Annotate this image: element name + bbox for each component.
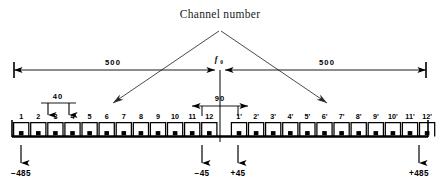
channel-right-6p[interactable]: 6' [317, 112, 332, 137]
channel-notch [391, 131, 396, 135]
channel-number-label: 2' [253, 112, 259, 121]
channel-right-11p[interactable]: 11' [402, 112, 417, 137]
span-dimension-left: 500 [14, 58, 215, 70]
channel-notch [104, 131, 109, 135]
channel-notch [271, 131, 276, 135]
channel-notch [87, 131, 92, 135]
channel-left-1[interactable]: 1 [14, 112, 29, 137]
leader-line-left [113, 31, 219, 103]
channel-right-8p[interactable]: 8' [351, 112, 366, 137]
channel-number-label: 11 [188, 112, 196, 121]
leader-line-right [221, 31, 327, 103]
channel-notch [288, 131, 293, 135]
dim-label-pitch: 40 [53, 92, 64, 101]
coord-label-right-inner: +45 [230, 169, 245, 178]
channel-left-11[interactable]: 11 [185, 112, 200, 137]
channel-number-label: 8 [139, 112, 143, 121]
channel-notch [408, 131, 413, 135]
channel-notch [374, 131, 379, 135]
channel-number-label: 4' [287, 112, 293, 121]
channel-number-label: 3 [53, 112, 57, 121]
channel-number-label: 5' [305, 112, 311, 121]
coord-label-left-inner: −45 [194, 169, 209, 178]
channel-number-label: 8' [356, 112, 362, 121]
channel-left-12[interactable]: 12 [202, 112, 217, 137]
dim-label-right-span: 500 [319, 58, 335, 67]
channel-number-label: 11' [405, 112, 415, 121]
channel-right-3p[interactable]: 3' [266, 112, 281, 137]
channel-right-10p[interactable]: 10' [385, 112, 400, 137]
channel-notch [173, 131, 178, 135]
diagram-title: Channel number [180, 8, 261, 20]
channel-number-label: 7' [339, 112, 345, 121]
channel-right-2p[interactable]: 2' [249, 112, 264, 137]
channel-left-4[interactable]: 4 [65, 112, 80, 137]
channel-number-label: 9 [156, 112, 160, 121]
channel-array: 1234567891011121'2'3'4'5'6'7'8'9'10'11'1… [14, 112, 435, 137]
f0-subscript: 0 [220, 59, 223, 65]
coord-label-left-outer: −485 [11, 169, 31, 178]
channel-notch [139, 131, 144, 135]
f0-symbol: f [215, 55, 219, 64]
channel-number-label: 4 [71, 112, 75, 121]
channel-right-4p[interactable]: 4' [283, 112, 298, 137]
channel-right-12p[interactable]: 12' [420, 112, 435, 137]
channel-notch [19, 131, 24, 135]
channel-number-label: 10' [388, 112, 398, 121]
channel-notch [339, 131, 344, 135]
channel-left-10[interactable]: 10 [168, 112, 183, 137]
channel-number-label: 6 [105, 112, 109, 121]
channel-notch [305, 131, 310, 135]
channel-notch [356, 131, 361, 135]
channel-notch [70, 131, 75, 135]
channel-number-label: 1 [19, 112, 23, 121]
channel-notch [122, 131, 127, 135]
span-dimension-right: 500 [225, 58, 426, 70]
coordinate-markers: −485 −45 +45 +485 [11, 145, 429, 178]
channel-number-label: 1' [236, 112, 242, 121]
channel-notch [237, 131, 242, 135]
channel-left-5[interactable]: 5 [82, 112, 97, 137]
channel-left-7[interactable]: 7 [116, 112, 131, 137]
channel-right-7p[interactable]: 7' [334, 112, 349, 137]
channel-number-label: 9' [373, 112, 379, 121]
channel-left-9[interactable]: 9 [150, 112, 165, 137]
channel-notch [36, 131, 41, 135]
coord-label-right-outer: +485 [409, 169, 429, 178]
channel-number-label: 10 [171, 112, 179, 121]
channel-notch [322, 131, 327, 135]
channel-left-8[interactable]: 8 [133, 112, 148, 137]
channel-notch [156, 131, 161, 135]
channel-right-5p[interactable]: 5' [300, 112, 315, 137]
channel-number-label: 7 [122, 112, 126, 121]
channel-number-label: 6' [322, 112, 328, 121]
channel-number-label: 12 [205, 112, 213, 121]
channel-right-1p[interactable]: 1' [231, 112, 246, 137]
channel-number-label: 5 [88, 112, 92, 121]
channel-number-label: 3' [270, 112, 276, 121]
diagram-canvas: Channel number 500 500 f 0 [0, 0, 440, 181]
channel-left-2[interactable]: 2 [31, 112, 46, 137]
channel-notch [190, 131, 195, 135]
channel-notch [207, 131, 212, 135]
dim-label-center-gap: 90 [215, 94, 226, 103]
channel-notch [53, 131, 58, 135]
dim-label-left-span: 500 [105, 58, 121, 67]
channel-left-3[interactable]: 3 [48, 112, 63, 137]
channel-left-6[interactable]: 6 [99, 112, 114, 137]
channel-notch [254, 131, 259, 135]
channel-number-label: 2 [36, 112, 40, 121]
channel-number-label: 12' [422, 112, 432, 121]
channel-right-9p[interactable]: 9' [368, 112, 383, 137]
center-frequency-marker: f 0 [215, 55, 223, 65]
